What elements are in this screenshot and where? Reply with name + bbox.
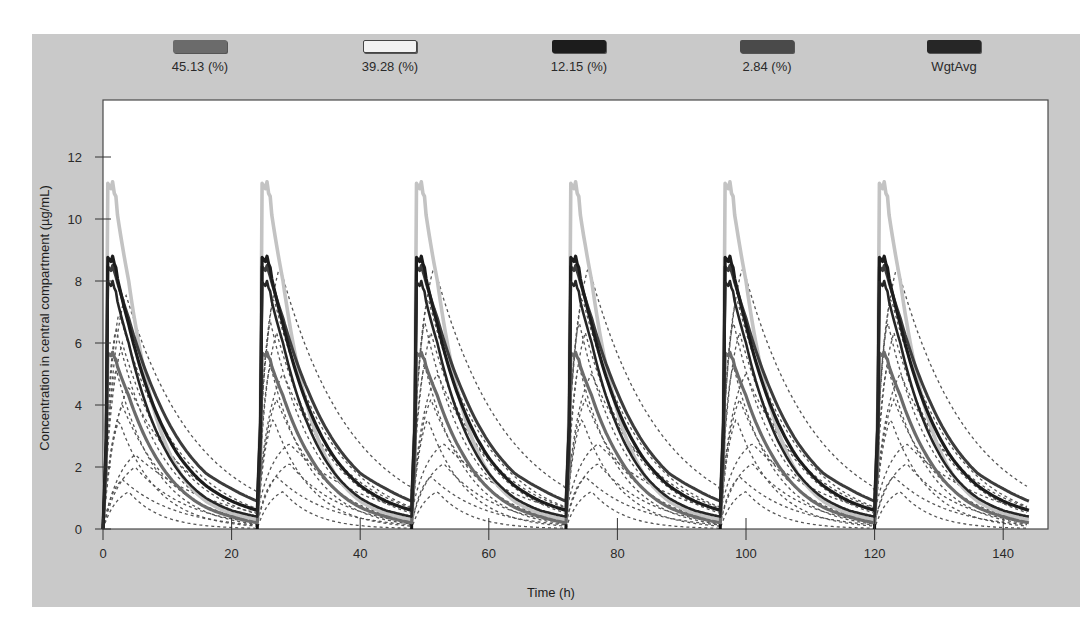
y-tick-label: 10 [68, 212, 82, 227]
dose-marker [410, 524, 413, 529]
y-axis-title: Concentration in central compartment (µg… [37, 185, 52, 450]
x-tick-label: 0 [99, 546, 106, 561]
x-tick-label: 120 [864, 546, 886, 561]
y-tick-label: 8 [75, 274, 82, 289]
x-tick-label: 100 [735, 546, 757, 561]
x-tick-label: 40 [353, 546, 367, 561]
x-tick-label: 60 [482, 546, 496, 561]
x-tick-label: 20 [224, 546, 238, 561]
y-tick-label: 2 [75, 460, 82, 475]
y-tick-label: 12 [68, 150, 82, 165]
y-tick-label: 0 [75, 522, 82, 537]
dose-marker [256, 524, 259, 529]
x-tick-label: 80 [610, 546, 624, 561]
dose-marker [564, 524, 567, 529]
x-axis-title: Time (h) [527, 585, 575, 600]
y-tick-label: 6 [75, 336, 82, 351]
x-tick-label: 140 [992, 546, 1014, 561]
y-tick-label: 4 [75, 398, 82, 413]
dose-marker [719, 524, 722, 529]
concentration-time-chart: 020406080100120140024681012 Time (h) Con… [0, 0, 1083, 633]
